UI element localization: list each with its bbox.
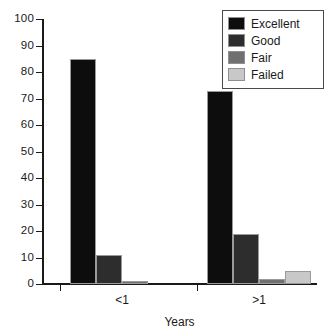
y-tick-mark: [36, 125, 42, 126]
x-tick-mark: [60, 285, 61, 291]
y-tick-mark: [36, 205, 42, 206]
y-tick-label: 10: [2, 252, 34, 264]
y-tick-label: 30: [2, 199, 34, 211]
y-tick-mark: [36, 46, 42, 47]
y-tick-mark: [36, 178, 42, 179]
bar-good-0: [96, 255, 122, 284]
bar-excellent-1: [207, 91, 233, 284]
y-tick-label: 80: [2, 66, 34, 78]
y-tick-label: 50: [2, 146, 34, 158]
legend-swatch-icon: [228, 68, 245, 81]
legend-swatch-icon: [228, 51, 245, 64]
bar-chart: 0102030405060708090100 <1>1 Years Excell…: [0, 0, 328, 333]
x-tick-mark: [197, 285, 198, 291]
legend-label: Fair: [251, 52, 272, 64]
y-tick-mark: [36, 284, 42, 285]
legend-item-fair: Fair: [228, 49, 318, 66]
bar-good-1: [233, 234, 259, 284]
y-tick-label: 60: [2, 119, 34, 131]
y-tick-mark: [36, 99, 42, 100]
bar-fair-0: [122, 281, 148, 284]
bar-failed-1: [285, 271, 311, 284]
x-axis-title: Years: [42, 316, 317, 328]
y-tick-mark: [36, 152, 42, 153]
legend-label: Good: [251, 35, 280, 47]
bar-fair-1: [259, 279, 285, 284]
legend-swatch-icon: [228, 17, 245, 30]
legend-label: Failed: [251, 69, 284, 81]
legend-item-excellent: Excellent: [228, 15, 318, 32]
y-tick-label: 100: [2, 13, 34, 25]
legend-item-failed: Failed: [228, 66, 318, 83]
y-tick-label: 40: [2, 172, 34, 184]
y-tick-mark: [36, 258, 42, 259]
legend-item-good: Good: [228, 32, 318, 49]
y-tick-mark: [36, 72, 42, 73]
legend-label: Excellent: [251, 18, 300, 30]
y-axis-line: [42, 19, 44, 285]
x-category-label: >1: [229, 294, 289, 306]
y-tick-label: 70: [2, 93, 34, 105]
x-category-label: <1: [92, 294, 152, 306]
y-tick-label: 20: [2, 225, 34, 237]
bar-excellent-0: [70, 59, 96, 284]
y-tick-label: 0: [2, 278, 34, 290]
legend-swatch-icon: [228, 34, 245, 47]
chart-legend: ExcellentGoodFairFailed: [222, 10, 324, 89]
y-tick-mark: [36, 231, 42, 232]
y-tick-label: 90: [2, 40, 34, 52]
y-tick-mark: [36, 19, 42, 20]
